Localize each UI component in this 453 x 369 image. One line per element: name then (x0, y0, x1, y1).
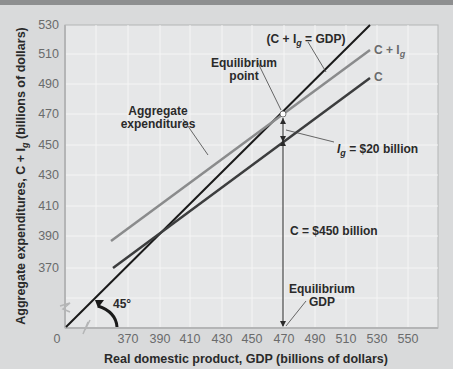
svg-text:370: 370 (118, 332, 139, 346)
y-tick-labels: 530 510 490 470 450 430 410 390 370 (38, 18, 59, 275)
svg-text:450: 450 (242, 332, 263, 346)
label-c-value: C = $450 billion (290, 224, 378, 238)
svg-text:490: 490 (305, 332, 326, 346)
svg-text:530: 530 (367, 332, 388, 346)
svg-text:370: 370 (38, 261, 59, 275)
label-equilibrium-point-2: point (229, 69, 258, 83)
label-aggregate-1: Aggregate (128, 104, 188, 118)
svg-text:550: 550 (398, 332, 419, 346)
svg-text:410: 410 (180, 332, 201, 346)
x-axis-title: Real domestic product, GDP (billions of … (104, 352, 388, 366)
label-equilibrium-gdp-2: GDP (309, 295, 335, 309)
svg-text:430: 430 (212, 332, 233, 346)
svg-text:510: 510 (38, 47, 59, 61)
label-angle: 45° (113, 297, 131, 311)
svg-text:470: 470 (38, 107, 59, 121)
svg-text:430: 430 (38, 168, 59, 182)
equilibrium-point-marker (280, 111, 286, 117)
svg-text:450: 450 (38, 138, 59, 152)
svg-text:410: 410 (38, 199, 59, 213)
label-aggregate-2: expenditures (121, 117, 196, 131)
svg-text:470: 470 (274, 332, 295, 346)
y-axis-title: Aggregate expenditures, C + Ig (billions… (14, 27, 30, 325)
svg-text:0: 0 (54, 332, 61, 346)
x-tick-labels: 0 370 390 410 430 450 470 490 510 530 55… (54, 332, 419, 346)
label-equilibrium-point-1: Equilibrium (211, 56, 277, 70)
aggregate-expenditures-chart: 530 510 490 470 450 430 410 390 370 0 37… (0, 0, 453, 369)
label-ig: Ig = $20 billion (337, 142, 418, 158)
label-equilibrium-gdp-1: Equilibrium (289, 282, 355, 296)
svg-text:510: 510 (336, 332, 357, 346)
label-c: C (374, 70, 383, 84)
svg-text:390: 390 (38, 229, 59, 243)
svg-text:530: 530 (38, 18, 59, 32)
svg-text:390: 390 (150, 332, 171, 346)
label-gdp-line: (C + Ig = GDP) (267, 32, 346, 48)
svg-text:490: 490 (38, 77, 59, 91)
